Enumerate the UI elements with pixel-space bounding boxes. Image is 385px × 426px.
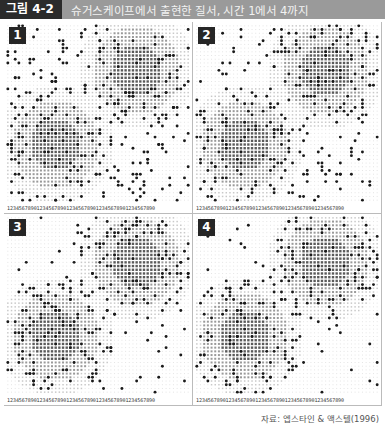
panel-3: 3 12345678901234567890123456789012345678…: [4, 214, 193, 406]
panel-grid: 1 12345678901234567890123456789012345678…: [4, 22, 382, 406]
x-axis-digits: 1234567890123456789012345678901234567890…: [196, 396, 379, 405]
figure-label: 그림 4-2: [0, 0, 62, 19]
panel-4: 4 12345678901234567890123456789012345678…: [193, 214, 382, 406]
x-axis-digits: 1234567890123456789012345678901234567890…: [7, 396, 190, 405]
sugarscape-lattice: [6, 24, 190, 202]
sugarscape-lattice: [195, 216, 379, 394]
panel-number-badge: 2: [198, 27, 215, 44]
sugarscape-lattice: [6, 216, 190, 394]
panel-number-badge: 1: [9, 27, 26, 44]
x-axis-digits: 1234567890123456789012345678901234567890…: [196, 204, 379, 213]
x-axis-digits: 1234567890123456789012345678901234567890…: [7, 204, 190, 213]
figure-title: 슈거스케이프에서 출현한 질서, 시간 1에서 4까지: [62, 2, 308, 18]
panel-number-badge: 4: [198, 219, 215, 236]
panel-2: 2 12345678901234567890123456789012345678…: [193, 22, 382, 214]
panel-1: 1 12345678901234567890123456789012345678…: [4, 22, 193, 214]
source-caption: 자료: 엡스타인 & 액스텔(1996): [261, 412, 379, 424]
sugarscape-lattice: [195, 24, 379, 202]
figure-header: 그림 4-2 슈거스케이프에서 출현한 질서, 시간 1에서 4까지: [0, 0, 385, 19]
panel-number-badge: 3: [9, 219, 26, 236]
